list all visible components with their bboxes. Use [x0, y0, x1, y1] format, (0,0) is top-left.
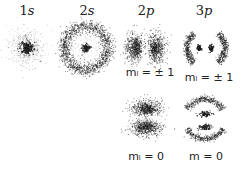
density-dot: [20, 36, 21, 37]
density-dot: [91, 20, 92, 21]
density-dot: [130, 51, 131, 52]
density-dot: [121, 129, 122, 130]
density-dot: [137, 52, 138, 53]
density-dot: [66, 48, 67, 49]
density-dot: [205, 101, 206, 102]
density-dot: [144, 48, 145, 49]
density-dot: [147, 113, 148, 114]
density-dot: [189, 132, 190, 133]
density-dot: [188, 55, 189, 56]
density-dot: [206, 99, 207, 100]
density-dot: [151, 58, 152, 59]
density-dot: [110, 40, 111, 41]
density-dot: [151, 50, 152, 51]
density-dot: [113, 52, 114, 53]
density-dot: [87, 34, 88, 35]
density-dot: [194, 106, 195, 107]
density-dot: [152, 55, 153, 56]
density-dot: [151, 41, 152, 42]
density-dot: [20, 38, 21, 39]
density-dot: [153, 42, 154, 43]
density-dot: [224, 55, 225, 56]
density-dot: [134, 45, 135, 46]
density-dot: [161, 42, 162, 43]
density-dot: [21, 37, 22, 38]
density-dot: [82, 50, 83, 51]
density-dot: [100, 60, 101, 61]
density-dot: [26, 36, 27, 37]
density-dot: [62, 61, 63, 62]
density-dot: [148, 127, 149, 128]
density-dot: [38, 40, 39, 41]
density-dot: [187, 106, 188, 107]
density-dot: [13, 51, 14, 52]
density-dot: [207, 135, 208, 136]
density-dot: [190, 103, 191, 104]
density-dot: [151, 42, 152, 43]
density-dot: [157, 137, 158, 138]
density-dot: [197, 100, 198, 101]
density-dot: [97, 59, 98, 60]
density-dot: [141, 40, 142, 41]
density-dot: [109, 43, 110, 44]
density-dot: [79, 71, 80, 72]
density-dot: [40, 56, 41, 57]
density-dot: [189, 56, 190, 57]
density-dot: [132, 125, 133, 126]
density-dot: [135, 106, 136, 107]
density-dot: [139, 42, 140, 43]
density-dot: [35, 42, 36, 43]
density-dot: [94, 48, 95, 49]
density-dot: [72, 49, 73, 50]
density-dot: [37, 32, 38, 33]
density-dot: [135, 55, 136, 56]
density-dot: [25, 36, 26, 37]
density-dot: [33, 31, 34, 32]
density-dot: [192, 33, 193, 34]
density-dot: [137, 128, 138, 129]
density-dot: [17, 45, 18, 46]
density-dot: [101, 36, 102, 37]
density-dot: [71, 36, 72, 37]
density-dot: [22, 57, 23, 58]
density-dot: [105, 52, 106, 53]
density-dot: [102, 45, 103, 46]
density-dot: [155, 123, 156, 124]
density-dot: [33, 50, 34, 51]
density-dot: [150, 55, 151, 56]
density-dot: [16, 50, 17, 51]
density-dot: [13, 37, 14, 38]
density-dot: [149, 34, 150, 35]
density-dot: [74, 47, 75, 48]
density-dot: [127, 129, 128, 130]
density-dot: [129, 110, 130, 111]
density-dot: [99, 42, 100, 43]
density-dot: [123, 47, 124, 48]
density-dot: [100, 43, 101, 44]
density-dot: [80, 70, 81, 71]
density-dot: [102, 65, 103, 66]
density-dot: [103, 52, 104, 53]
density-dot: [37, 53, 38, 54]
density-dot: [155, 48, 156, 49]
density-dot: [109, 48, 110, 49]
density-dot: [157, 63, 158, 64]
density-dot: [59, 66, 60, 67]
density-dot: [226, 44, 227, 45]
density-dot: [210, 134, 211, 135]
density-dot: [29, 70, 30, 71]
density-dot: [127, 111, 128, 112]
density-dot: [87, 43, 88, 44]
density-dot: [129, 105, 130, 106]
density-dot: [227, 51, 228, 52]
density-dot: [224, 44, 225, 45]
density-dot: [150, 97, 151, 98]
density-dot: [164, 47, 165, 48]
density-dot: [76, 58, 77, 59]
density-dot: [28, 48, 29, 49]
density-dot: [94, 33, 95, 34]
density-dot: [83, 51, 84, 52]
density-dot: [63, 55, 64, 56]
density-dot: [154, 134, 155, 135]
density-dot: [95, 55, 96, 56]
